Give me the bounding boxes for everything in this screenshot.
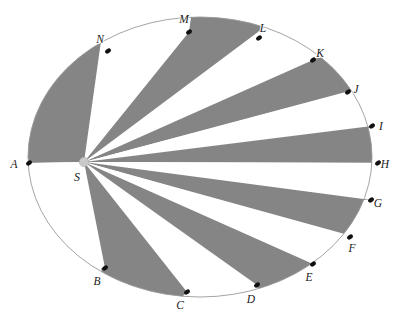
vertex-label-k: K bbox=[315, 47, 325, 59]
figure-canvas: SABCDEFGHIJKLMN bbox=[0, 0, 404, 316]
vertex-label-m: M bbox=[178, 13, 190, 25]
vertex-label-a: A bbox=[9, 158, 18, 170]
vertex-marker-f bbox=[346, 233, 354, 240]
vertex-label-b: B bbox=[93, 275, 100, 287]
vertex-label-s: S bbox=[74, 170, 80, 184]
vertex-marker-i bbox=[368, 122, 376, 129]
vertex-label-i: I bbox=[378, 120, 384, 132]
vertex-label-h: H bbox=[380, 158, 390, 170]
vertex-label-d: D bbox=[246, 293, 256, 305]
vertex-label-l: L bbox=[259, 22, 266, 34]
vertex-label-n: N bbox=[95, 33, 105, 45]
vertex-label-e: E bbox=[304, 271, 312, 283]
vertex-label-g: G bbox=[374, 197, 383, 209]
ellipse-fan-diagram: SABCDEFGHIJKLMN bbox=[0, 0, 404, 316]
wedge-layer bbox=[28, 17, 378, 297]
vertex-label-c: C bbox=[176, 299, 184, 311]
vertex-label-j: J bbox=[353, 83, 359, 95]
vertex-label-f: F bbox=[347, 242, 356, 254]
apex-marker-s bbox=[79, 157, 88, 166]
